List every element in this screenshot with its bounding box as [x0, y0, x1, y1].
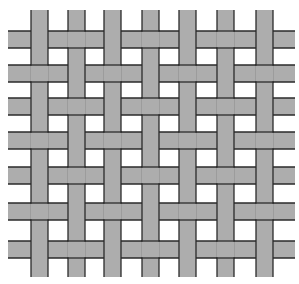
crossing-patch [30, 133, 49, 149]
crossing-patch [178, 133, 197, 149]
vertical-strip [217, 10, 234, 277]
crossing-patch [103, 66, 122, 82]
crossing-patch [178, 66, 197, 82]
crossing-patch [67, 242, 86, 258]
crossing-patch [30, 204, 49, 220]
crossing-patch [255, 204, 274, 220]
crossing-patch [216, 242, 235, 258]
crossing-patch [216, 168, 235, 184]
crossing-patch [216, 99, 235, 115]
crossing-patch [141, 168, 160, 184]
crossing-patch [255, 66, 274, 82]
crossing-patch [141, 242, 160, 258]
crossing-patch [67, 168, 86, 184]
basket-weave-figure [0, 0, 299, 284]
vertical-strip [142, 10, 159, 277]
crossing-patch [103, 133, 122, 149]
crossing-patch [67, 32, 86, 48]
crossing-patch [103, 204, 122, 220]
crossing-patch [216, 32, 235, 48]
crossing-patch [141, 99, 160, 115]
vertical-strip [68, 10, 85, 277]
crossing-patch [255, 133, 274, 149]
crossing-patch [178, 204, 197, 220]
crossing-patch [67, 99, 86, 115]
crossing-patch [30, 66, 49, 82]
crossing-patch [141, 32, 160, 48]
